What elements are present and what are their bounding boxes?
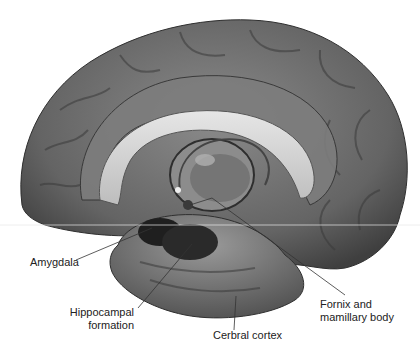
label-amygdala: Amygdala [30, 256, 79, 269]
label-fornix-line2: mamillary body [320, 311, 394, 324]
label-cerebral-cortex: Cerbral cortex [213, 329, 282, 342]
brain-diagram: Amygdala Hippocampal formation Cerbral c… [0, 0, 420, 355]
hippocampal-region [162, 224, 218, 260]
label-fornix-mamillary: Fornix and mamillary body [320, 298, 394, 324]
label-hippocampal-line2: formation [64, 319, 134, 332]
mamillary-body [183, 200, 193, 210]
label-fornix-line1: Fornix and [320, 298, 394, 311]
label-hippocampal-formation: Hippocampal formation [64, 306, 134, 332]
label-hippocampal-line1: Hippocampal [64, 306, 134, 319]
